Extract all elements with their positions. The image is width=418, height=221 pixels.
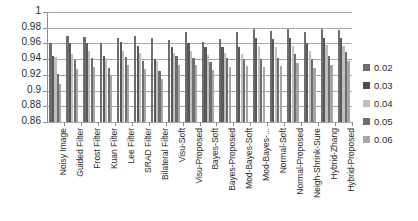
x-axis-category-label: Bayes-Proposed [228,128,237,191]
legend-swatch-icon [363,64,370,71]
x-axis-category-label: Lee Filter [127,128,136,163]
chart-legend: 0.020.030.040.050.06 [363,60,418,150]
x-axis-category-label: Normal-Proposed [296,128,305,195]
x-axis-category-labels: Noisy ImageGuided FilterFrost FilterKuan… [0,0,418,221]
x-axis-category-label: Guided Filter [76,128,85,177]
legend-item: 0.02 [363,60,418,75]
legend-label: 0.02 [374,63,393,73]
x-axis-category-label: Bilateral Filter [161,128,170,180]
legend-swatch-icon [363,136,370,143]
legend-item: 0.03 [363,78,418,93]
legend-label: 0.06 [374,135,393,145]
legend-label: 0.03 [374,81,393,91]
legend-label: 0.04 [374,99,393,109]
legend-item: 0.06 [363,132,418,147]
x-axis-category-label: Noisy Image [59,128,68,175]
x-axis-category-label: Visu-Soft [178,128,187,162]
legend-swatch-icon [363,82,370,89]
legend-label: 0.05 [374,117,393,127]
x-axis-category-label: Normal-Soft [279,128,288,173]
legend-item: 0.04 [363,96,418,111]
x-axis-category-label: Frost Filter [93,128,102,169]
x-axis-category-label: Neigh-Shrink-Sure [313,128,322,198]
bar-chart: 10.980.960.940.920.90.880.86 Noisy Image… [0,0,418,221]
x-axis-category-label: Mod-Bayes-... [262,128,271,181]
legend-swatch-icon [363,100,370,107]
x-axis-category-label: Visu-Proposed [195,128,204,184]
legend-swatch-icon [363,118,370,125]
x-axis-category-label: Hybrid-Proposed [347,128,356,192]
legend-item: 0.05 [363,114,418,129]
x-axis-category-label: Kuan Filter [110,128,119,169]
x-axis-category-label: Hybrid-Zhang [330,128,339,180]
x-axis-category-label: Bayes-Soft [211,128,220,170]
x-axis-category-label: Mod-Bayes-Soft [245,128,254,189]
x-axis-category-label: SRAD Filter [144,128,153,173]
